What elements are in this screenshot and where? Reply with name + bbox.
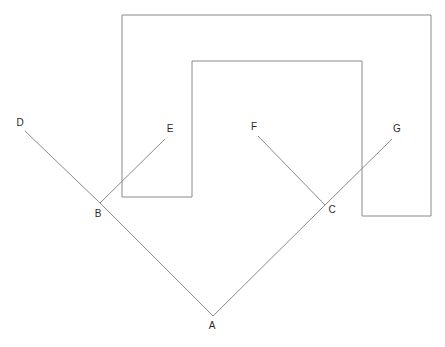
segment-c-g (325, 139, 392, 205)
segment-d-b (25, 131, 100, 203)
geometry-figure: A B C D E F G (0, 0, 445, 347)
diagram-canvas: A B C D E F G (0, 0, 445, 347)
vertex-label-e: E (167, 123, 174, 134)
vertex-label-f: F (251, 121, 257, 132)
vertex-label-c: C (328, 204, 335, 215)
segment-b-a (100, 203, 213, 316)
segment-b-e (100, 139, 165, 203)
vertex-label-g: G (393, 123, 401, 134)
segment-a-c (213, 205, 325, 316)
vertex-label-d: D (16, 117, 23, 128)
segment-f-c (258, 136, 325, 205)
bracket-outline-shape (122, 15, 431, 216)
vertex-label-b: B (95, 208, 102, 219)
vertex-label-a: A (209, 320, 216, 331)
